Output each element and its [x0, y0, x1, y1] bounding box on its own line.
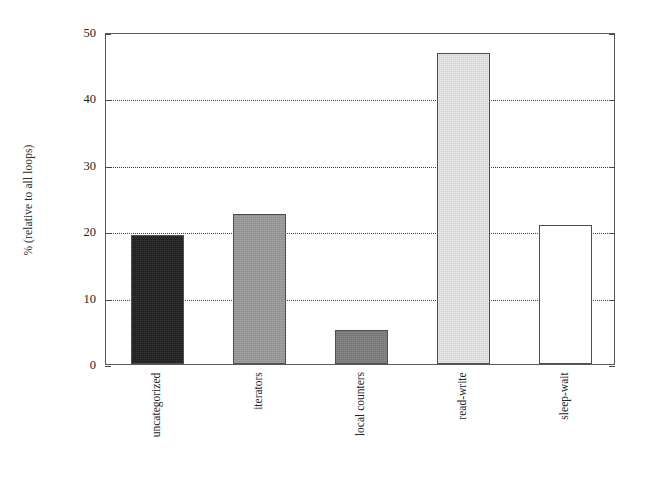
axis-tick-mark — [105, 100, 111, 101]
bar — [539, 225, 592, 364]
gridline — [106, 100, 614, 101]
x-axis-tick-label: sleep-wait — [556, 372, 572, 472]
axis-tick-mark — [105, 300, 111, 301]
axis-tick-mark — [609, 167, 615, 168]
axis-tick-mark — [105, 366, 111, 367]
y-axis-title-container: % (relative to all loops) — [0, 0, 56, 400]
gridline — [106, 167, 614, 168]
bar — [131, 235, 184, 364]
bar-texture — [234, 215, 285, 363]
axis-tick-mark — [609, 366, 615, 367]
bar-texture — [336, 331, 387, 363]
bar — [437, 53, 490, 364]
bar — [335, 330, 388, 364]
x-axis-tick-label: uncategorized — [148, 372, 164, 472]
y-axis-tick-label: 30 — [62, 158, 96, 173]
y-axis-tick-label: 40 — [62, 92, 96, 107]
bar-texture — [132, 236, 183, 363]
x-axis-tick-label-text: sleep-wait — [558, 372, 570, 419]
axis-tick-mark — [609, 100, 615, 101]
axis-tick-mark — [105, 233, 111, 234]
x-axis-tick-label: local counters — [352, 372, 368, 472]
axis-tick-mark — [609, 233, 615, 234]
axis-tick-mark — [105, 167, 111, 168]
y-axis-tick-label: 0 — [62, 358, 96, 373]
bar-texture — [438, 54, 489, 363]
bar — [233, 214, 286, 364]
y-axis-tick-label: 20 — [62, 225, 96, 240]
axis-tick-mark — [105, 34, 111, 35]
x-axis-tick-label-text: uncategorized — [150, 372, 162, 437]
x-axis-tick-label-text: read-write — [456, 372, 468, 419]
y-axis-tick-label: 50 — [62, 26, 96, 41]
axis-tick-mark — [609, 34, 615, 35]
bar-chart-figure: % (relative to all loops) 50403020100 un… — [0, 0, 648, 480]
y-axis-title: % (relative to all loops) — [22, 144, 34, 255]
y-axis-tick-label: 10 — [62, 291, 96, 306]
x-axis-tick-label: read-write — [454, 372, 470, 472]
x-axis-tick-label: iterators — [250, 372, 266, 472]
x-axis-tick-label-text: local counters — [354, 372, 366, 436]
plot-area — [105, 33, 615, 365]
axis-tick-mark — [609, 300, 615, 301]
x-axis-tick-label-text: iterators — [252, 372, 264, 410]
